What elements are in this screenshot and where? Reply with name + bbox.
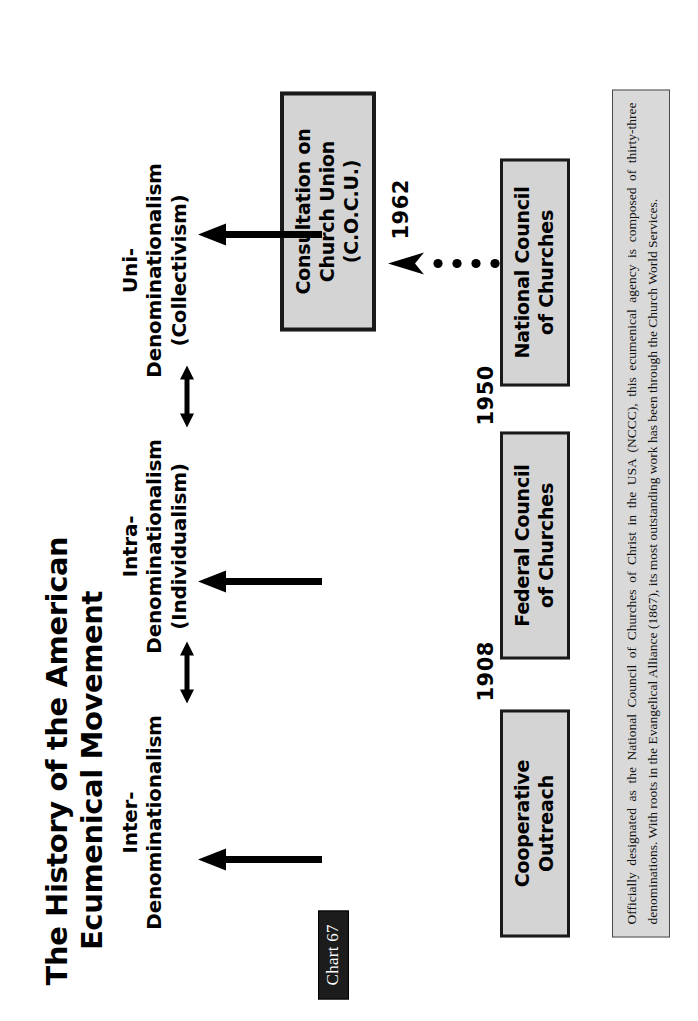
node-box-national-council-line-1: National Council bbox=[511, 186, 535, 358]
year-label-1908: 1908 bbox=[474, 641, 498, 701]
chart-number-badge: Chart 67 bbox=[318, 910, 349, 999]
node-box-federal-council-of-churches: Federal Council of Churches bbox=[500, 431, 570, 659]
footnote-box: Officially designated as the National Co… bbox=[612, 89, 670, 937]
arrow-federal-to-intra-icon bbox=[198, 569, 322, 593]
arrow-national-to-cocu-dotted-icon bbox=[382, 250, 502, 276]
outcome-uni-line-2: Denominationalism bbox=[142, 139, 166, 401]
arrow-cooperative-to-inter-icon bbox=[198, 847, 322, 871]
page-title: The History of the American Ecumenical M… bbox=[40, 555, 111, 985]
node-box-consultation-on-church-union: Consultation on Church Union (C.O.C.U.) bbox=[280, 91, 376, 331]
page-title-line-2: Ecumenical Movement bbox=[75, 555, 110, 985]
outcome-inter-line-1: Inter- bbox=[118, 691, 142, 953]
node-box-cooperative-outreach: Cooperative Outreach bbox=[500, 709, 570, 937]
outcome-label-intra-denominationalism: Intra- Denominationalism (Individualism) bbox=[118, 415, 191, 677]
year-label-1950: 1950 bbox=[474, 365, 498, 425]
chart-canvas: The History of the American Ecumenical M… bbox=[0, 0, 698, 1021]
node-box-national-council-line-2: of Churches bbox=[535, 209, 559, 334]
node-box-federal-council-line-1: Federal Council bbox=[511, 464, 535, 626]
page-title-line-1: The History of the American bbox=[40, 555, 75, 985]
outcome-uni-line-1: Uni- bbox=[118, 139, 142, 401]
node-box-cocu-line-1: Consultation on bbox=[292, 128, 316, 294]
outcome-intra-line-3: (Individualism) bbox=[167, 415, 191, 677]
node-box-federal-council-line-2: of Churches bbox=[535, 482, 559, 607]
node-box-cocu-line-2: Church Union bbox=[316, 140, 340, 281]
outcome-label-inter-denominationalism: Inter- Denominationalism bbox=[118, 691, 167, 953]
outcome-inter-line-2: Denominationalism bbox=[142, 691, 166, 953]
outcome-intra-line-2: Denominationalism bbox=[142, 415, 166, 677]
node-box-cooperative-outreach-line-2: Outreach bbox=[535, 774, 559, 871]
outcome-uni-line-3: (Collectivism) bbox=[167, 139, 191, 401]
year-label-1962: 1962 bbox=[389, 179, 413, 239]
node-box-national-council-of-churches: National Council of Churches bbox=[500, 158, 570, 386]
outcome-intra-line-1: Intra- bbox=[118, 415, 142, 677]
node-box-cocu-line-3: (C.O.C.U.) bbox=[340, 159, 364, 262]
arrow-cocu-to-uni-icon bbox=[198, 222, 322, 246]
outcome-label-uni-denominationalism: Uni- Denominationalism (Collectivism) bbox=[118, 139, 191, 401]
node-box-cooperative-outreach-line-1: Cooperative bbox=[511, 759, 535, 886]
